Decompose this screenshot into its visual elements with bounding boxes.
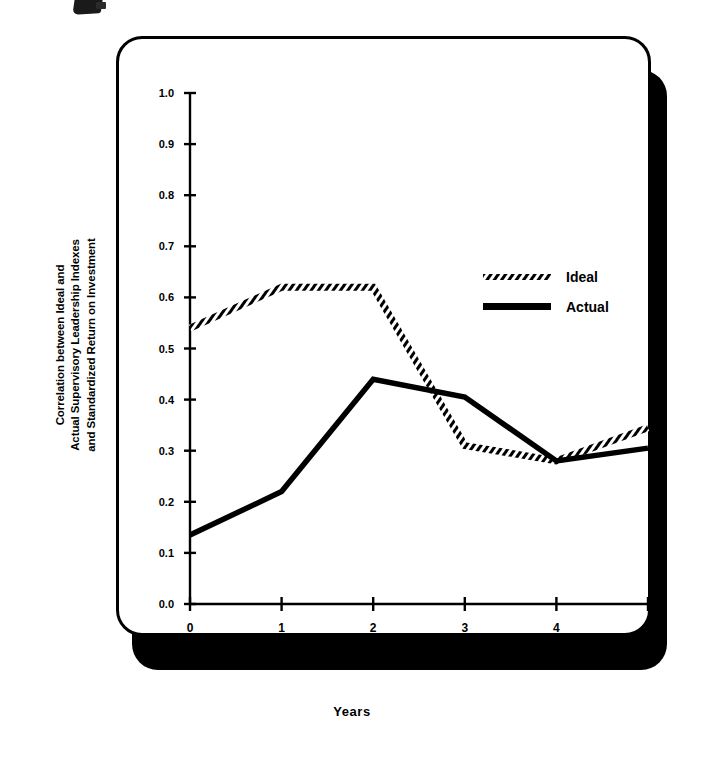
y-tick-label: 0.1 xyxy=(159,547,174,559)
y-tick-label: 0.2 xyxy=(159,496,174,508)
legend-swatch-ideal xyxy=(483,274,551,280)
legend-label-actual: Actual xyxy=(566,299,609,315)
series-line-actual xyxy=(190,379,648,535)
x-axis: 012345 xyxy=(187,597,652,635)
x-axis-title: Years xyxy=(0,704,704,719)
y-axis: 0.00.10.20.30.40.50.60.70.80.91.0 xyxy=(159,87,196,610)
x-tick-label: 3 xyxy=(461,621,468,635)
y-tick-label: 0.3 xyxy=(159,445,174,457)
x-tick-group: 012345 xyxy=(187,597,652,635)
legend: Ideal Actual xyxy=(483,269,609,315)
x-tick-label: 1 xyxy=(278,621,285,635)
series-group xyxy=(190,287,648,535)
y-tick-label: 0.8 xyxy=(159,189,174,201)
y-tick-label: 0.9 xyxy=(159,138,174,150)
x-tick-label: 0 xyxy=(187,621,194,635)
y-tick-label: 1.0 xyxy=(159,87,174,99)
y-tick-label: 0.5 xyxy=(159,343,174,355)
x-tick-label: 5 xyxy=(645,621,652,635)
y-tick-label: 0.7 xyxy=(159,240,174,252)
x-tick-label: 4 xyxy=(553,621,560,635)
line-chart: 0.00.10.20.30.40.50.60.70.80.91.0 012345… xyxy=(0,0,704,764)
legend-swatch-actual xyxy=(483,303,551,310)
x-tick-label: 2 xyxy=(370,621,377,635)
legend-label-ideal: Ideal xyxy=(566,269,598,285)
y-tick-label: 0.6 xyxy=(159,291,174,303)
y-tick-label: 0.0 xyxy=(159,598,174,610)
y-tick-label: 0.4 xyxy=(159,394,175,406)
